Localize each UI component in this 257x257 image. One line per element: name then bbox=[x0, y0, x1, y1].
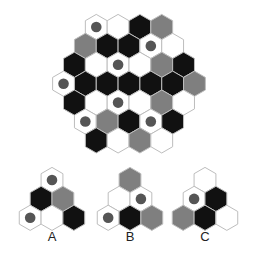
option-a-label[interactable]: A bbox=[48, 229, 57, 244]
dot-icon bbox=[80, 116, 91, 127]
dot-icon bbox=[58, 78, 69, 89]
dot-icon bbox=[25, 213, 36, 224]
dot-icon bbox=[113, 97, 124, 108]
dot-icon bbox=[146, 116, 157, 127]
puzzle-canvas bbox=[0, 0, 257, 257]
option-b-label[interactable]: B bbox=[126, 229, 135, 244]
main-hex-grid bbox=[53, 14, 206, 153]
option-c-figure[interactable] bbox=[172, 167, 237, 230]
option-a-figure[interactable] bbox=[19, 167, 84, 230]
dot-icon bbox=[189, 194, 200, 205]
dot-icon bbox=[136, 194, 147, 205]
dot-icon bbox=[47, 175, 58, 186]
dot-icon bbox=[146, 41, 157, 52]
dot-icon bbox=[113, 60, 124, 71]
dot-icon bbox=[103, 213, 114, 224]
dot-icon bbox=[91, 22, 102, 33]
option-b-figure[interactable] bbox=[97, 167, 162, 230]
option-c-label[interactable]: C bbox=[200, 229, 209, 244]
